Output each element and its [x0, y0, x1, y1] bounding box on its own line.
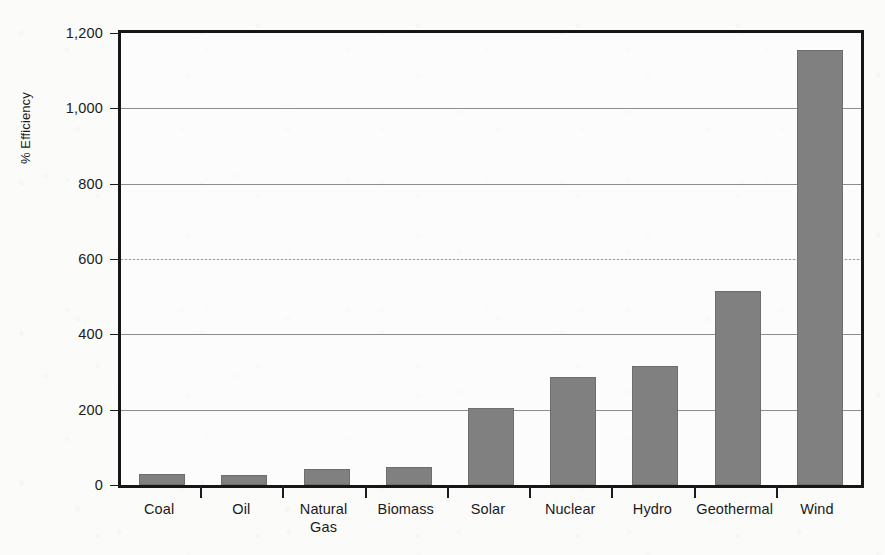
x-axis-tick [447, 485, 449, 498]
x-axis-ticks [118, 485, 864, 499]
x-axis-tick-label: Oil [232, 500, 250, 518]
bar [632, 366, 678, 485]
bar [797, 50, 843, 485]
bar-slot [203, 33, 285, 485]
x-axis-tick-label: Wind [800, 500, 833, 518]
bar-slot [532, 33, 614, 485]
x-axis-tick-label: Hydro [633, 500, 672, 518]
bar-slot [450, 33, 532, 485]
x-axis-tick [282, 485, 284, 498]
x-axis-tick [200, 485, 202, 498]
y-axis-tick-label: 1,000 [66, 100, 103, 116]
x-axis-tick [694, 485, 696, 498]
y-axis-tick [110, 259, 121, 260]
plot-area: 02004006008001,0001,200 [118, 30, 864, 488]
bar-slot [779, 33, 861, 485]
x-axis-tick [611, 485, 613, 498]
x-axis-labels: CoalOilNatural GasBiomassSolarNuclearHyd… [118, 500, 858, 550]
x-axis-tick-label: Biomass [378, 500, 434, 518]
bar-slot [697, 33, 779, 485]
y-axis-title: % Efficiency [18, 24, 40, 164]
bar [715, 291, 761, 485]
bar [139, 474, 185, 485]
bar [386, 467, 432, 485]
x-axis-tick [529, 485, 531, 498]
bars [121, 33, 861, 485]
bar [550, 377, 596, 485]
y-axis-tick-label: 600 [78, 251, 103, 267]
y-axis-tick-label: 0 [95, 477, 103, 493]
bar [304, 469, 350, 485]
bar-chart: % Efficiency 02004006008001,0001,200 Coa… [0, 0, 885, 555]
y-axis-tick-label: 800 [78, 176, 103, 192]
x-axis-tick-label: Nuclear [545, 500, 596, 518]
x-axis-tick [776, 485, 778, 498]
y-axis-tick [110, 33, 121, 34]
y-axis-tick [110, 334, 121, 335]
y-axis-tick [110, 184, 121, 185]
x-axis-tick-label: Solar [471, 500, 505, 518]
bar [468, 408, 514, 485]
bar-slot [121, 33, 203, 485]
x-axis-tick-label: Natural Gas [300, 500, 347, 536]
x-axis-tick-label: Geothermal [696, 500, 773, 518]
x-axis-tick-label: Coal [144, 500, 174, 518]
bar-slot [285, 33, 367, 485]
y-axis-tick-label: 1,200 [66, 25, 103, 41]
y-axis-tick-label: 200 [78, 402, 103, 418]
y-axis-tick [110, 108, 121, 109]
y-axis-tick-label: 400 [78, 326, 103, 342]
bar-slot [368, 33, 450, 485]
x-axis-tick [365, 485, 367, 498]
y-axis-tick [110, 410, 121, 411]
bar [221, 475, 267, 485]
bar-slot [614, 33, 696, 485]
